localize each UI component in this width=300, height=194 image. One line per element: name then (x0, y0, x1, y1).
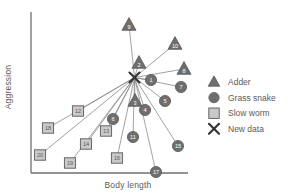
data-point-label: 10 (172, 43, 178, 49)
connector-line-8 (135, 69, 185, 78)
data-point-label: 13 (103, 128, 109, 134)
legend: AdderGrass snakeSlow wormNew data (208, 76, 276, 134)
connector-line-7 (135, 78, 182, 88)
data-point-19[interactable]: 19 (64, 158, 75, 168)
data-point-label: 5 (163, 98, 166, 104)
data-point-16[interactable]: 16 (111, 153, 122, 163)
connector-line-11 (133, 78, 135, 138)
data-point-6[interactable]: 6 (107, 113, 118, 124)
data-point-label: 17 (153, 169, 159, 175)
data-point-label: 9 (127, 24, 130, 30)
triangle-icon (208, 76, 220, 87)
data-point-2[interactable]: 2 (132, 56, 146, 69)
scatter-plot-figure: 1234567891011121314151617181920 AdderGra… (0, 0, 300, 194)
data-point-label: 20 (37, 152, 43, 158)
data-point-label: 1 (149, 77, 152, 83)
plot-canvas: 1234567891011121314151617181920 AdderGra… (0, 0, 300, 194)
data-point-1[interactable]: 1 (145, 74, 156, 85)
legend-item-adder[interactable]: Adder (208, 76, 251, 87)
data-point-label: 11 (130, 134, 136, 140)
data-point-18[interactable]: 18 (42, 123, 53, 133)
data-point-label: 15 (175, 143, 181, 149)
data-point-5[interactable]: 5 (159, 95, 170, 106)
legend-label: Adder (228, 77, 251, 87)
data-markers: 1234567891011121314151617181920 (34, 18, 191, 178)
data-point-label: 19 (67, 160, 73, 166)
data-point-label: 6 (111, 116, 114, 122)
data-point-17[interactable]: 17 (150, 166, 161, 177)
data-point-label: 7 (179, 84, 182, 90)
data-point-label: 16 (114, 155, 120, 161)
legend-item-new-data[interactable]: New data (209, 124, 264, 134)
legend-item-grass-snake[interactable]: Grass snake (209, 92, 276, 102)
data-point-20[interactable]: 20 (34, 150, 45, 160)
data-point-11[interactable]: 11 (127, 131, 138, 142)
data-point-label: 2 (137, 62, 140, 68)
data-point-12[interactable]: 12 (72, 106, 83, 116)
square-icon (209, 108, 219, 118)
data-point-label: 4 (143, 107, 146, 113)
x-axis-label: Body length (78, 180, 178, 190)
legend-label: New data (228, 124, 264, 134)
data-point-9[interactable]: 9 (122, 18, 136, 31)
data-point-label: 12 (75, 108, 81, 114)
data-point-13[interactable]: 13 (100, 126, 111, 136)
legend-item-slow-worm[interactable]: Slow worm (209, 108, 270, 118)
data-point-4[interactable]: 4 (139, 104, 150, 115)
data-point-label: 18 (45, 125, 51, 131)
connector-line-9 (129, 25, 135, 78)
data-point-label: 3 (133, 100, 136, 106)
data-point-14[interactable]: 14 (80, 139, 91, 149)
legend-label: Slow worm (228, 108, 270, 118)
data-point-7[interactable]: 7 (175, 81, 186, 92)
data-point-10[interactable]: 10 (168, 37, 182, 50)
data-point-8[interactable]: 8 (177, 62, 191, 75)
y-axis-label: Aggression (3, 57, 13, 117)
data-point-15[interactable]: 15 (172, 140, 183, 151)
data-point-label: 8 (182, 68, 185, 74)
data-point-label: 14 (83, 141, 89, 147)
legend-label: Grass snake (228, 93, 276, 103)
circle-icon (209, 92, 219, 102)
